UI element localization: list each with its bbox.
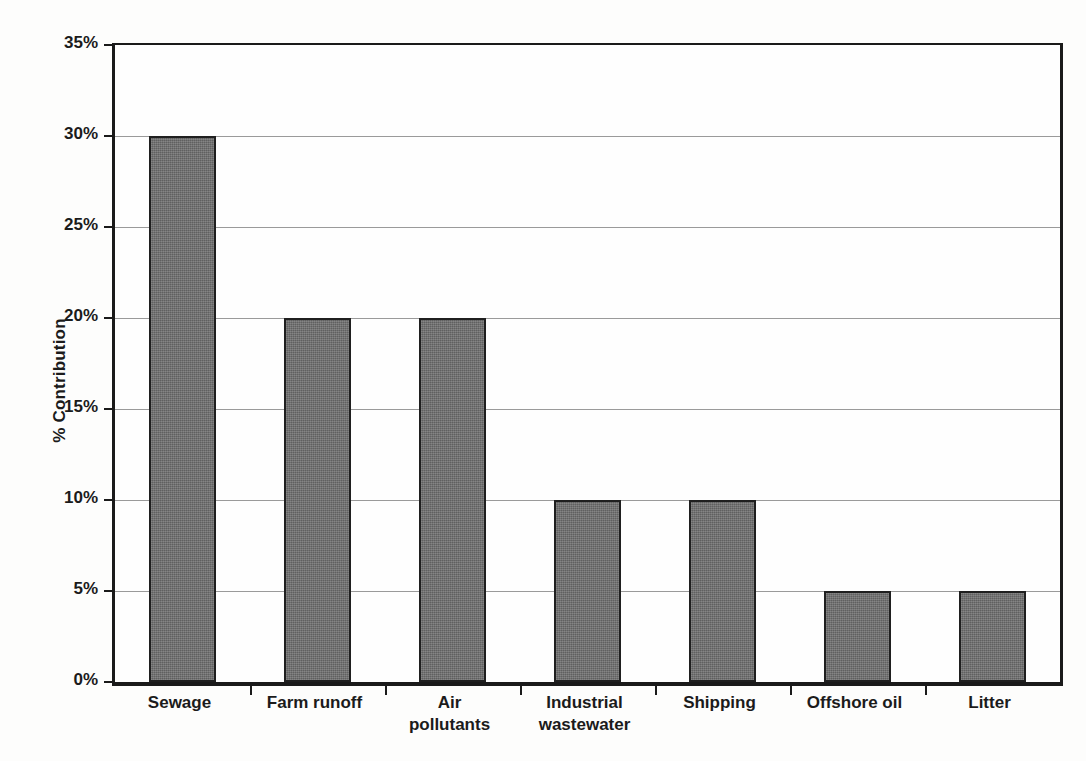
bar: [419, 318, 487, 682]
x-axis-category-label: Offshore oil: [787, 692, 922, 714]
x-axis-category-label: Farm runoff: [247, 692, 382, 714]
x-axis-category-label-line: Industrial: [517, 692, 652, 714]
x-axis-category-label: Airpollutants: [382, 692, 517, 737]
plot-area: [112, 43, 1063, 686]
y-axis-tick-label: 15%: [64, 397, 98, 417]
y-axis-tick-mark: [104, 499, 115, 501]
x-axis-category-label-line: wastewater: [517, 714, 652, 736]
y-axis-tick-label: 20%: [64, 306, 98, 326]
bar: [959, 591, 1027, 682]
gridline: [115, 136, 1060, 137]
x-axis-category-label: Sewage: [112, 692, 247, 714]
x-axis-category-label: Litter: [922, 692, 1057, 714]
y-axis-tick-label: 30%: [64, 124, 98, 144]
x-axis-category-label-line: Shipping: [652, 692, 787, 714]
bar: [149, 136, 217, 682]
y-axis-tick-mark: [104, 135, 115, 137]
y-axis-tick-mark: [104, 44, 115, 46]
y-axis-tick-mark: [104, 317, 115, 319]
x-axis-category-label: Industrialwastewater: [517, 692, 652, 737]
x-axis-category-label: Shipping: [652, 692, 787, 714]
gridline: [115, 409, 1060, 410]
bar: [824, 591, 892, 682]
y-axis-tick-label: 25%: [64, 215, 98, 235]
y-axis-tick-label: 0%: [73, 670, 98, 690]
bar: [554, 500, 622, 682]
plot-inner: [115, 45, 1060, 682]
y-axis-tick-label: 5%: [73, 579, 98, 599]
y-axis-tick-label: 10%: [64, 488, 98, 508]
x-axis-category-label-line: pollutants: [382, 714, 517, 736]
bar: [689, 500, 757, 682]
y-axis-tick-mark: [104, 226, 115, 228]
gridline: [115, 227, 1060, 228]
chart-page: % Contribution 0%5%10%15%20%25%30%35% Se…: [0, 0, 1086, 761]
y-axis-tick-mark: [104, 681, 115, 683]
y-axis-tick-mark: [104, 590, 115, 592]
x-axis-category-label-line: Litter: [922, 692, 1057, 714]
x-axis-category-label-line: Offshore oil: [787, 692, 922, 714]
x-axis-category-label-line: Air: [382, 692, 517, 714]
y-axis-tick-labels: 0%5%10%15%20%25%30%35%: [0, 0, 112, 761]
x-axis-category-label-line: Farm runoff: [247, 692, 382, 714]
gridline: [115, 318, 1060, 319]
y-axis-tick-mark: [104, 408, 115, 410]
bar: [284, 318, 352, 682]
x-axis-category-label-line: Sewage: [112, 692, 247, 714]
y-axis-tick-label: 35%: [64, 33, 98, 53]
x-axis-category-labels: SewageFarm runoffAirpollutantsIndustrial…: [112, 692, 1057, 761]
